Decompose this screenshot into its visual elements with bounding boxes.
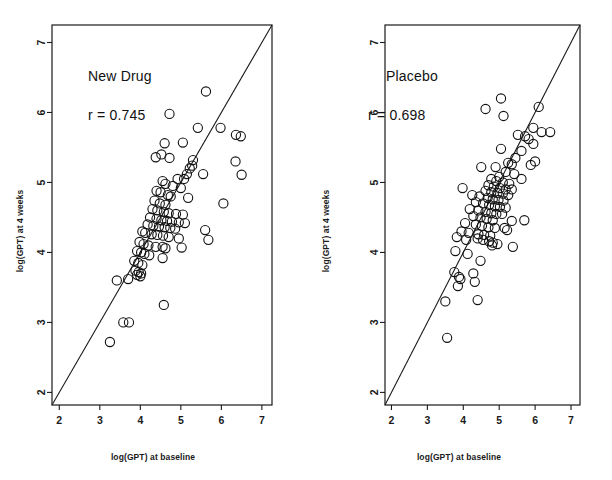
data-point [451, 246, 460, 255]
y-axis-tick-label: 7 [35, 39, 47, 45]
y-axis-tick-label: 5 [368, 179, 380, 185]
x-axis-tick-label: 3 [97, 414, 103, 426]
data-point [161, 244, 170, 253]
data-point [201, 225, 210, 234]
data-point [477, 162, 486, 171]
scatter-plot-canvas-right: 234567234567 [306, 0, 612, 480]
correlation-annotation-new-drug: r = 0.745 [88, 107, 145, 123]
data-point [507, 216, 516, 225]
panel-title-new-drug: New Drug [88, 68, 152, 84]
data-point [112, 276, 121, 285]
data-point [499, 111, 508, 120]
scatter-plot-canvas-left: 234567234567 [0, 0, 306, 480]
data-point [469, 269, 478, 278]
x-axis-tick-label: 4 [460, 414, 466, 426]
data-point [174, 234, 183, 243]
data-point [158, 231, 167, 240]
data-point [496, 94, 505, 103]
correlation-annotation-placebo: r = 0.698 [368, 107, 425, 123]
data-point [165, 109, 174, 118]
x-axis-tick-label: 7 [259, 414, 265, 426]
data-point [180, 218, 189, 227]
x-axis-tick-label: 6 [218, 414, 224, 426]
data-point [537, 127, 546, 136]
y-axis-label-right: log(GPT) at 4 weeks [321, 151, 331, 311]
y-axis-label-left: log(GPT) at 4 weeks [15, 151, 25, 311]
data-point [158, 253, 167, 262]
data-point [502, 225, 511, 234]
data-point [482, 214, 491, 223]
data-point [141, 228, 150, 237]
x-axis-tick-label: 7 [568, 414, 574, 426]
data-point [477, 221, 486, 230]
data-point [105, 337, 114, 346]
y-axis-tick-label: 7 [368, 39, 380, 45]
data-point [476, 256, 485, 265]
data-point [150, 196, 159, 205]
data-point [458, 183, 467, 192]
data-point [216, 123, 225, 132]
data-point [500, 223, 509, 232]
y-axis-tick-label: 3 [35, 319, 47, 325]
data-point [496, 144, 505, 153]
data-point-group [441, 94, 555, 343]
data-point [185, 164, 194, 173]
data-point [231, 157, 240, 166]
data-point [201, 87, 210, 96]
data-point [160, 139, 169, 148]
identity-reference-line [52, 25, 272, 405]
data-point [237, 170, 246, 179]
data-point [470, 277, 479, 286]
x-axis-tick-label: 4 [137, 414, 143, 426]
data-point [481, 104, 490, 113]
data-point [165, 153, 174, 162]
data-point [443, 333, 452, 342]
x-axis-tick-label: 3 [424, 414, 430, 426]
x-axis-tick-label: 5 [178, 414, 184, 426]
data-point [151, 153, 160, 162]
y-axis-tick-label: 2 [35, 389, 47, 395]
data-point-group [105, 87, 246, 347]
data-point [158, 176, 167, 185]
data-point [124, 318, 133, 327]
x-axis-tick-label: 2 [389, 414, 395, 426]
data-point [465, 204, 474, 213]
panel-title-placebo: Placebo [386, 68, 438, 84]
scatter-panel-placebo: 234567234567 Placebo r = 0.698 log(GPT) … [306, 0, 612, 480]
data-point [204, 235, 213, 244]
figure-root: 234567234567 New Drug r = 0.745 log(GPT)… [0, 0, 612, 480]
x-axis-tick-label: 6 [532, 414, 538, 426]
data-point [460, 218, 469, 227]
data-point [199, 169, 208, 178]
y-axis-tick-label: 5 [35, 179, 47, 185]
data-point [177, 243, 186, 252]
x-axis-label-left: log(GPT) at baseline [0, 452, 306, 462]
data-point [184, 193, 193, 202]
y-axis-tick-label: 2 [368, 389, 380, 395]
data-point [491, 162, 500, 171]
y-axis-tick-label: 3 [368, 319, 380, 325]
data-point [441, 297, 450, 306]
data-point [534, 102, 543, 111]
data-point [164, 232, 173, 241]
data-point [193, 123, 202, 132]
data-point [508, 242, 517, 251]
data-point [452, 232, 461, 241]
x-axis-tick-label: 5 [496, 414, 502, 426]
x-axis-label-right: log(GPT) at baseline [306, 452, 612, 462]
data-point [219, 199, 228, 208]
y-axis-tick-label: 6 [35, 109, 47, 115]
data-point [178, 138, 187, 147]
y-axis-tick-label: 4 [35, 249, 47, 255]
data-point [520, 216, 529, 225]
data-point [546, 127, 555, 136]
data-point [473, 295, 482, 304]
data-point [119, 318, 128, 327]
scatter-panel-new-drug: 234567234567 New Drug r = 0.745 log(GPT)… [0, 0, 306, 480]
data-point [463, 249, 472, 258]
data-point [517, 174, 526, 183]
data-point [159, 300, 168, 309]
y-axis-tick-label: 4 [368, 249, 380, 255]
x-axis-tick-label: 2 [56, 414, 62, 426]
